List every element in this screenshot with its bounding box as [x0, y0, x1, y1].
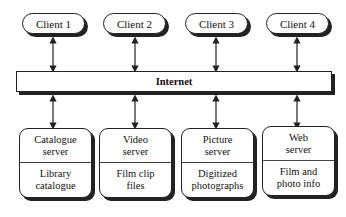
client-4-node: Client 4	[266, 13, 329, 34]
server-content-line: files	[126, 180, 144, 192]
server-title-line: server	[43, 146, 69, 158]
server-content-line: Library	[40, 168, 72, 180]
client-2-label: Client 2	[117, 18, 152, 30]
client-3-label: Client 3	[199, 18, 234, 30]
server-content: Librarycatalogue	[20, 163, 91, 197]
server-title: Pictureserver	[182, 129, 253, 163]
server-title-line: Web	[289, 132, 308, 144]
server-title-line: Video	[123, 134, 148, 146]
server-title-line: Catalogue	[34, 134, 77, 146]
client-1-node: Client 1	[22, 13, 85, 34]
client-1-label: Client 1	[36, 18, 71, 30]
server-content: Film andphoto info	[263, 161, 334, 195]
server-title-line: server	[123, 146, 149, 158]
server-content-line: Film clip	[116, 168, 154, 180]
server-title-line: server	[286, 144, 312, 156]
server-title: Webserver	[263, 127, 334, 161]
client-4-label: Client 4	[280, 18, 315, 30]
client-2-node: Client 2	[103, 13, 166, 34]
server-content-line: Digitized	[198, 168, 237, 180]
internet-label: Internet	[156, 76, 193, 87]
server-content-line: photographs	[192, 180, 244, 192]
catalogue-server-node: Catalogueserver Librarycatalogue	[19, 128, 92, 198]
server-content-line: catalogue	[35, 180, 75, 192]
server-title-line: Picture	[203, 134, 233, 146]
server-title: Videoserver	[100, 129, 171, 163]
server-content-line: Film and	[280, 166, 318, 178]
server-title-line: server	[205, 146, 231, 158]
internet-bar: Internet	[16, 71, 332, 92]
web-server-node: Webserver Film andphoto info	[262, 126, 335, 196]
server-content-line: photo info	[277, 178, 320, 190]
server-content: Film clipfiles	[100, 163, 171, 197]
client-3-node: Client 3	[185, 13, 248, 34]
server-content: Digitizedphotographs	[182, 163, 253, 197]
picture-server-node: Pictureserver Digitizedphotographs	[181, 128, 254, 198]
video-server-node: Videoserver Film clipfiles	[99, 128, 172, 198]
server-title: Catalogueserver	[20, 129, 91, 163]
